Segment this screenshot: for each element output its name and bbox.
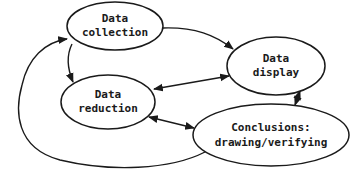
node-label-line2: display [253,66,300,79]
node-label-line1: Conclusions: [231,121,310,134]
node-label-line2: reduction [78,102,138,115]
node-data-display: Data display [227,37,325,95]
interactive-model-diagram: Data collection Data display Data reduct… [0,0,351,175]
node-label-line2: collection [82,26,148,39]
edge-reduction-display [154,76,229,89]
edge-collection-to-display [163,28,233,49]
node-data-collection: Data collection [67,2,163,50]
node-label-line1: Data [263,52,290,65]
edge-collection-to-reduction [68,44,73,82]
edge-reduction-conclusions [149,117,194,128]
node-label-line2: drawing/verifying [215,136,328,149]
node-label-line1: Data [95,88,122,101]
node-conclusions: Conclusions: drawing/verifying [193,104,349,166]
node-label-line1: Data [102,12,129,25]
node-data-reduction: Data reduction [61,75,155,129]
